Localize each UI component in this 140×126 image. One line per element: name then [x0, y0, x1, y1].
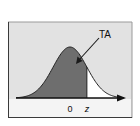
z-tick-label: z	[84, 104, 90, 114]
area-label: TA	[99, 29, 111, 40]
normal-curve-diagram: TA 0 z	[0, 0, 140, 126]
mean-tick-label: 0	[67, 104, 72, 114]
